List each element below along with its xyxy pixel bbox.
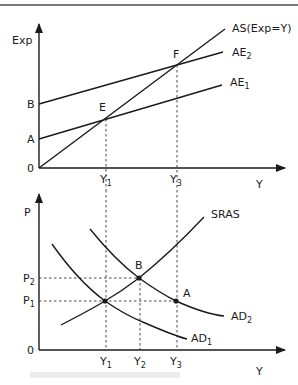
point-e-label: E [99, 101, 106, 114]
ad2-curve-label: AD2 [231, 310, 252, 325]
point-a-label: A [183, 287, 191, 300]
as-line [39, 29, 225, 168]
point-a [173, 298, 178, 303]
top-x-axis-label: Y [255, 178, 263, 191]
bottom-y-axis-label: P [24, 206, 31, 219]
tick-y1-top-label: Y1 [99, 173, 112, 188]
point-p1-y1 [102, 298, 107, 303]
as-line-label: AS(Exp=Y) [232, 22, 291, 35]
tick-y2-bottom-label: Y2 [133, 355, 146, 370]
tick-p1-label: P1 [23, 294, 35, 309]
tick-a-label: A [27, 133, 35, 146]
top-panel: Exp 0 A B E F AS(Exp=Y) AE2 AE1 Y1 Y3 Y [12, 22, 291, 191]
sras-curve [61, 217, 204, 325]
tick-y3-top-label: Y3 [169, 173, 182, 188]
tick-y3-bottom-label: Y3 [169, 355, 182, 370]
ae1-line-label: AE1 [230, 76, 250, 91]
top-y-axis-label: Exp [12, 34, 32, 47]
point-b-label: B [135, 259, 143, 272]
tick-y1-bottom-label: Y1 [99, 355, 112, 370]
tick-b-label: B [27, 98, 35, 111]
ae-ad-diagram: Exp 0 A B E F AS(Exp=Y) AE2 AE1 Y1 Y3 Y … [0, 0, 298, 385]
point-b [136, 275, 141, 280]
tick-p2-label: P2 [23, 272, 35, 287]
ae2-line [39, 52, 223, 104]
point-f-label: F [173, 48, 179, 61]
bottom-origin-label: 0 [27, 344, 34, 357]
ad1-curve-label: AD1 [191, 332, 212, 347]
bottom-x-axis-label: Y [255, 365, 263, 378]
bottom-panel: P 0 P2 P1 B A SRAS AD2 AD1 Y1 Y2 Y3 Y [23, 190, 285, 378]
ad2-curve [90, 229, 224, 316]
top-origin-label: 0 [27, 162, 34, 175]
sras-curve-label: SRAS [211, 208, 240, 221]
faded-caption [30, 372, 180, 378]
ae1-line [39, 85, 222, 139]
ae2-line-label: AE2 [232, 46, 252, 61]
